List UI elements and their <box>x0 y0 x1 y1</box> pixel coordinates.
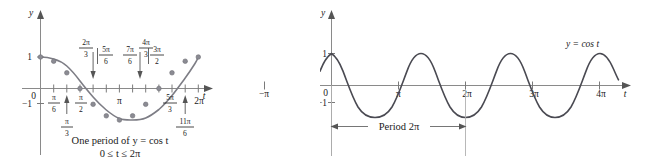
left-below-label-2pi: 2π <box>194 96 204 106</box>
left-caption-line1: One period of y = cos t <box>72 135 169 146</box>
period-label: Period 2π <box>379 121 420 132</box>
left-above-label-2pi-3: 2π 3 <box>79 38 96 79</box>
left-x-axis-arrowhead <box>204 85 213 92</box>
left-y-axis-arrowhead <box>37 10 44 19</box>
svg-text:π: π <box>79 93 83 102</box>
left-below-label-pi-3: π 3 <box>61 95 73 138</box>
left-y-axis-label: y <box>28 8 34 18</box>
left-above-label-5pi-6: 5π 6 <box>98 45 114 66</box>
left-below-label-11pi-6: 11π 6 <box>176 95 194 138</box>
svg-text:2π: 2π <box>82 38 90 47</box>
left-below-label-pi-2: π 2 <box>75 93 87 114</box>
svg-text:3: 3 <box>144 50 148 59</box>
left-above-label-4pi-3: 4π 3 <box>137 38 153 79</box>
svg-text:2: 2 <box>155 57 159 66</box>
svg-text:6: 6 <box>128 57 132 66</box>
svg-text:5π: 5π <box>166 93 174 102</box>
left-caption-line2: 0 ≤ t ≤ 2π <box>100 148 141 159</box>
left-ylabel-neg1: −1 <box>22 99 32 109</box>
svg-text:6: 6 <box>104 57 108 66</box>
svg-text:4π: 4π <box>142 38 150 47</box>
left-ylabel-0: 0 <box>31 91 36 101</box>
right-function-label: y = cos t <box>565 39 599 49</box>
svg-text:3: 3 <box>168 105 172 114</box>
svg-text:2: 2 <box>79 105 83 114</box>
cosine-graphs-figure: y t 1 0 −1 2π <box>0 0 645 163</box>
right-panel-negpi-overlay: −π <box>255 0 335 163</box>
svg-text:5π: 5π <box>102 45 110 54</box>
svg-text:3: 3 <box>65 129 69 138</box>
svg-text:3π: 3π <box>153 45 161 54</box>
svg-text:6: 6 <box>183 129 187 138</box>
right-xlabel-4pi: 4π <box>596 89 606 99</box>
svg-text:11π: 11π <box>179 117 190 126</box>
svg-text:π: π <box>52 93 56 102</box>
right-x-axis-arrowhead <box>622 82 631 89</box>
svg-text:3: 3 <box>84 50 88 59</box>
left-ylabel-1: 1 <box>27 52 32 62</box>
right-panel-svg: y t 1 0 −1 π 2π 3π 4π y = cos t Period 2… <box>320 0 645 163</box>
left-below-label-pi: π <box>117 96 122 106</box>
left-below-label-pi-6: π 6 <box>48 93 60 114</box>
right-xlabel-2pi: 2π <box>462 89 472 99</box>
period-dimension: Period 2π <box>331 119 467 134</box>
svg-text:π: π <box>65 117 69 126</box>
svg-text:6: 6 <box>52 105 56 114</box>
svg-text:7π: 7π <box>126 45 134 54</box>
left-above-label-7pi-6: 7π 6 <box>123 45 137 66</box>
right-xlabel-neg-pi: −π <box>259 89 269 99</box>
right-t-axis-label: t <box>624 89 627 99</box>
